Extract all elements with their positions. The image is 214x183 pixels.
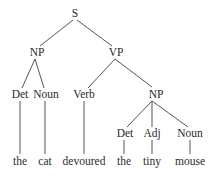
word-the-object: the: [117, 155, 131, 167]
node-verb: Verb: [73, 88, 95, 100]
edge-np-noun2: [152, 101, 188, 127]
word-mouse: mouse: [175, 155, 205, 167]
node-det-object: Det: [117, 127, 134, 139]
word-tiny: tiny: [143, 155, 161, 168]
word-cat: cat: [38, 155, 52, 167]
edge-s-vp: [77, 20, 112, 46]
edge-vp-verb: [88, 59, 115, 88]
node-noun: Noun: [33, 88, 59, 100]
edge-vp-np: [115, 59, 152, 87]
edge-s-np: [40, 20, 73, 46]
edge-np-noun: [35, 59, 44, 88]
tree-edges: [20, 20, 190, 154]
edge-np-det: [22, 59, 35, 88]
tree-nodes: S NP VP Det Noun Verb NP Det Adj Noun: [12, 7, 203, 140]
syntax-tree-diagram: S NP VP Det Noun Verb NP Det Adj Noun th…: [0, 0, 214, 183]
word-devoured: devoured: [63, 155, 106, 167]
node-np-object: NP: [149, 88, 164, 100]
edge-np-det2: [127, 101, 152, 127]
node-np: NP: [30, 46, 45, 58]
node-adj: Adj: [143, 127, 160, 140]
node-det: Det: [12, 88, 29, 100]
node-vp: VP: [109, 46, 124, 58]
tree-canvas: S NP VP Det Noun Verb NP Det Adj Noun th…: [0, 0, 214, 183]
node-s: S: [72, 7, 78, 19]
tree-words: the cat devoured the tiny mouse: [13, 155, 205, 168]
word-the: the: [13, 155, 27, 167]
node-noun-object: Noun: [177, 127, 203, 139]
